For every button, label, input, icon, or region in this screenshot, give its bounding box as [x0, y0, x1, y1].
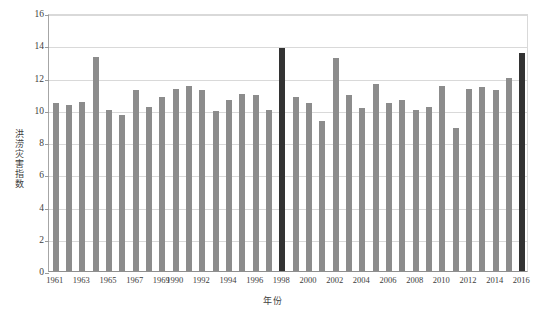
bar — [53, 103, 59, 271]
y-axis-tick-label: 2 — [39, 235, 44, 245]
y-axis-tickmark — [45, 273, 49, 274]
bar — [239, 94, 245, 271]
bar — [399, 100, 405, 271]
x-axis-tick-labels: 1961196319651967196919901992199419961998… — [48, 275, 528, 289]
bar — [346, 95, 352, 271]
bar — [386, 103, 392, 271]
bar — [333, 58, 339, 271]
bar — [279, 48, 285, 271]
bar — [199, 90, 205, 271]
y-axis-tick-label: 8 — [39, 138, 44, 148]
x-axis-tick-label: 1998 — [273, 275, 290, 285]
x-axis-tick-label: 2010 — [433, 275, 450, 285]
bar — [66, 105, 72, 271]
x-axis-tick-label: 1996 — [246, 275, 263, 285]
x-axis-tick-label: 2012 — [460, 275, 477, 285]
bar — [519, 53, 525, 271]
bar — [493, 90, 499, 271]
y-axis-tick-label: 16 — [35, 9, 45, 19]
plot-area — [48, 14, 528, 272]
bar — [133, 90, 139, 271]
bar — [293, 97, 299, 271]
y-axis-tick-label: 4 — [39, 203, 44, 213]
bar — [79, 102, 85, 271]
bar — [253, 95, 259, 271]
x-axis-tick-label: 2002 — [326, 275, 343, 285]
x-axis-tick-label: 2006 — [380, 275, 397, 285]
bar — [413, 110, 419, 271]
y-axis-tick-label: 14 — [35, 41, 45, 51]
bar — [439, 86, 445, 271]
x-axis-tick-label: 1992 — [193, 275, 210, 285]
bar — [106, 110, 112, 271]
bar — [186, 86, 192, 271]
x-axis-tick-label: 2004 — [353, 275, 370, 285]
x-axis-tick-label: 1990 — [166, 275, 183, 285]
x-axis-tick-label: 1961 — [46, 275, 63, 285]
bar — [159, 97, 165, 271]
y-axis-tick-labels: 0246810121416 — [24, 14, 44, 272]
bar — [173, 89, 179, 271]
bar — [466, 89, 472, 271]
bar — [146, 107, 152, 271]
x-axis-tick-label: 2016 — [513, 275, 530, 285]
bar — [479, 87, 485, 271]
bar — [93, 57, 99, 271]
x-axis-tick-label: 1963 — [73, 275, 90, 285]
bar — [426, 107, 432, 271]
y-axis-tick-label: 10 — [35, 106, 45, 116]
x-axis-title: 年份 — [0, 294, 545, 307]
bar — [306, 103, 312, 271]
flood-index-bar-chart: 洪涝灾害指数 0246810121416 1961196319651967196… — [0, 0, 545, 317]
y-axis-title-text: 洪涝灾害指数 — [15, 129, 24, 189]
bar — [226, 100, 232, 271]
y-axis-tick-label: 6 — [39, 170, 44, 180]
bar — [119, 115, 125, 271]
x-axis-tick-label: 1994 — [220, 275, 237, 285]
bar — [213, 111, 219, 271]
bar — [359, 108, 365, 271]
y-axis-tick-label: 0 — [39, 267, 44, 277]
x-axis-tick-label: 2014 — [486, 275, 503, 285]
bar — [506, 78, 512, 272]
bar — [266, 110, 272, 271]
y-axis-tick-label: 12 — [35, 74, 45, 84]
x-axis-tick-label: 2008 — [406, 275, 423, 285]
x-axis-tick-label: 2000 — [300, 275, 317, 285]
bar — [319, 121, 325, 271]
bar — [453, 128, 459, 272]
x-axis-tick-label: 1965 — [100, 275, 117, 285]
x-axis-tick-label: 1967 — [126, 275, 143, 285]
bar-series — [49, 15, 527, 271]
bar — [373, 84, 379, 271]
